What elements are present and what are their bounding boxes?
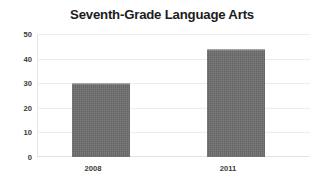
- plot-area: [37, 34, 310, 157]
- chart-title: Seventh-Grade Language Arts: [0, 7, 324, 22]
- y-tick-label: 40: [6, 54, 32, 63]
- bar-2011[interactable]: [207, 49, 265, 157]
- y-tick-label: 20: [6, 103, 32, 112]
- gridline: [37, 59, 310, 60]
- y-tick-label: 50: [6, 30, 32, 39]
- bar-chart-figure: Seventh-Grade Language Arts 50 40 30 20 …: [0, 0, 324, 185]
- y-tick-label: 30: [6, 79, 32, 88]
- gridline: [37, 34, 310, 35]
- bar-2008[interactable]: [72, 83, 130, 157]
- x-tick-label-2008: 2008: [43, 164, 143, 173]
- y-tick-label: 10: [6, 128, 32, 137]
- y-tick-label: 0: [6, 153, 32, 162]
- x-tick-label-2011: 2011: [178, 164, 278, 173]
